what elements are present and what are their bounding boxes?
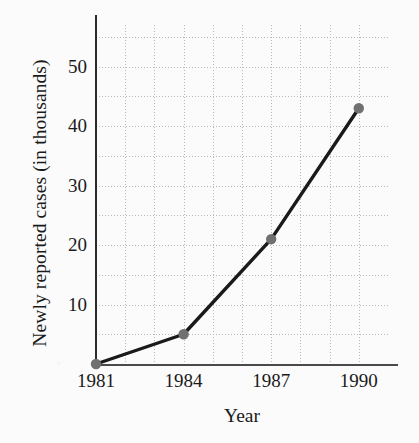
data-point-marker bbox=[91, 359, 101, 369]
y-axis-tick-label: 10 bbox=[68, 294, 87, 316]
plot-frame: 1020304050 1981198419871990 bbox=[96, 25, 388, 364]
x-axis-tick-label: 1984 bbox=[165, 370, 203, 392]
line-chart-figure: Newly reported cases (in thousands) 1020… bbox=[0, 0, 419, 443]
y-axis-tick-label: 40 bbox=[68, 115, 87, 137]
data-point-marker bbox=[178, 329, 188, 339]
data-point-marker bbox=[266, 234, 276, 244]
x-axis-title: Year bbox=[96, 405, 388, 427]
y-axis-tick-label: 50 bbox=[68, 56, 87, 78]
x-axis-tick-label: 1981 bbox=[77, 370, 115, 392]
x-axis-tick-label: 1987 bbox=[252, 370, 290, 392]
data-series-layer bbox=[96, 25, 388, 364]
series-line bbox=[96, 108, 359, 364]
y-axis-title: Newly reported cases (in thousands) bbox=[22, 28, 58, 378]
y-axis-tick-label: 30 bbox=[68, 175, 87, 197]
data-point-marker bbox=[354, 103, 364, 113]
series-markers bbox=[91, 103, 364, 369]
x-axis-line bbox=[92, 364, 398, 366]
y-axis-tick-label: 20 bbox=[68, 234, 87, 256]
x-axis-tick-label: 1990 bbox=[340, 370, 378, 392]
